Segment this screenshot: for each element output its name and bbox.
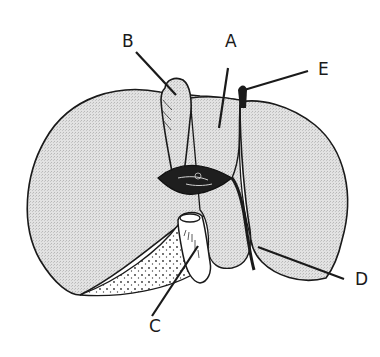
label-e: E xyxy=(318,61,329,78)
label-b: B xyxy=(122,33,134,50)
label-c: C xyxy=(149,318,161,335)
leader-line-b xyxy=(136,52,176,95)
diagram-canvas: A B C D E xyxy=(0,0,380,357)
label-d: D xyxy=(355,271,368,288)
label-a: A xyxy=(225,33,237,50)
leader-line-e xyxy=(244,71,308,90)
organ-illustration xyxy=(0,0,380,357)
right-lobe xyxy=(240,101,348,280)
